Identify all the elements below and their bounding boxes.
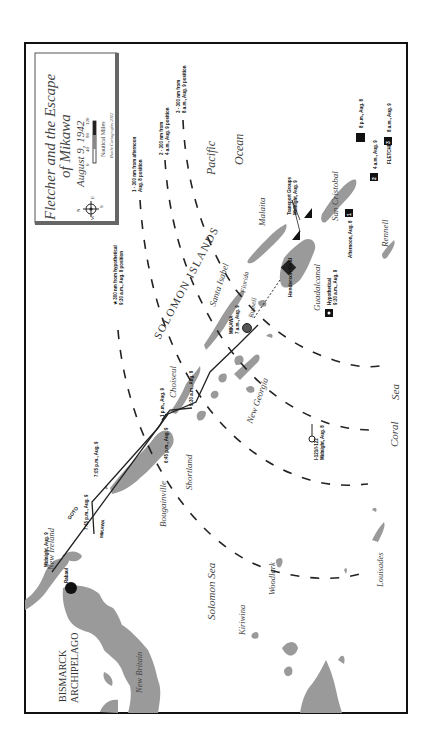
map-title-line1: Fletcher and the Escape — [42, 73, 58, 221]
afternoon-label: Afternoon, Aug. 8 — [348, 220, 353, 258]
compass-w: W — [90, 215, 95, 220]
compass-e: E — [90, 196, 95, 199]
arc-star-label-2: 9:30 a.m., Aug. 9 position — [119, 251, 124, 305]
label-bougainville: Bougainville — [158, 481, 168, 527]
scale-label: Nautical Miles — [100, 121, 106, 157]
map-date: August 9, 1942 — [74, 120, 86, 188]
label-choiseul: Choiseul — [168, 365, 178, 398]
label-bismarck-2: ARCHIPELAGO — [69, 632, 80, 703]
label-shortland: Shortland — [184, 454, 194, 490]
p4am-label: 4 a.m., Aug. 9 — [373, 140, 378, 169]
label-guadalcanal: Guadalcanal — [312, 264, 322, 311]
arc-3-label-2: 8 a.m., Aug. 9 position — [182, 65, 187, 113]
arc-3-label-1: 3 - 300 nm from — [176, 80, 181, 113]
scale-tick-40: 40 — [85, 147, 90, 153]
arc-2-label-1: 2 - 300 nm from — [159, 122, 164, 155]
fletcher-position-3-num: 3 — [385, 141, 391, 144]
compass-n: N — [76, 208, 81, 212]
sub-label-1: I-121/I-122 — [314, 438, 319, 460]
mikawa-end-label-1: MIKAWA — [229, 315, 234, 334]
hypothetical-label-2: 9:30 a.m., Aug. 9 — [333, 269, 338, 305]
mikawa-745-label: 7:45 p.m., Aug. 9 — [84, 494, 89, 530]
fletcher-position-2-num: 2 — [371, 177, 377, 180]
label-woodlark: Woodlark — [267, 562, 277, 595]
compass-s: S — [99, 205, 104, 208]
label-rabaul: Rabaul — [64, 568, 69, 583]
sub-label-2: Midnight, Aug. 8 — [320, 425, 325, 460]
title-box: Fletcher and the Escape of Mikawa August… — [35, 53, 119, 225]
mikawa-end-label-2: 7 a.m., Aug. 9 — [235, 305, 240, 334]
label-sea: Sea — [389, 384, 401, 400]
label-solomon-sea: Solomon Sea — [205, 562, 217, 620]
t-645-label: 6:45 p.m., Aug. 9 — [164, 427, 169, 463]
goto-705-label: 7:05 p.m., Aug. 9 — [94, 441, 99, 477]
fletcher-position-8pm — [356, 133, 365, 142]
label-louisades: Louisades — [375, 552, 385, 588]
goto-start-label: Midnight, Aug. 9 — [44, 532, 49, 567]
fletcher-position-1-num: 1 — [346, 213, 352, 216]
hypothetical-label-1: Hypothetical — [327, 278, 332, 305]
arc-1-label-1: 1 - 300 nm from afternoon — [132, 136, 137, 192]
t-1pm-label: 1 p.m., Aug. 9 — [160, 387, 165, 417]
map-canvas: Fletcher and the Escape of Mikawa August… — [0, 0, 430, 749]
label-malaita: Malaita — [257, 197, 267, 227]
arc-1-label-2: Aug. 8 position — [138, 159, 143, 192]
p8pm-label: 8 p.m., Aug. 8 — [359, 98, 364, 128]
label-pacific: Pacific — [204, 140, 218, 176]
transport-label-1: Transport Groups — [287, 176, 292, 215]
arc-star-label-1: ★ 300 nm from hypothetical — [113, 245, 118, 305]
map-title-line2: of Mikawa — [57, 114, 73, 178]
label-henderson-field: Henderson Field — [287, 258, 293, 297]
t-930-label: 9:30 a.m., Aug. 9 — [189, 370, 194, 406]
credit: Battle Cartography 2012 — [109, 112, 114, 158]
label-coral: Coral — [388, 421, 400, 447]
scale-tick-80: 80 — [85, 133, 90, 139]
label-san-cristobal: San Cristobal — [330, 171, 340, 221]
label-new-britain: New Britain — [134, 652, 144, 694]
mikawa-position-marker — [243, 324, 252, 333]
label-rennell: Rennell — [380, 219, 390, 248]
label-bismarck-1: BISMARCK — [57, 649, 68, 702]
p8am-label: 8 a.m., Aug. 9 — [387, 103, 392, 132]
label-ocean: Ocean — [232, 134, 246, 165]
label-kiriwina: Kiriwina — [237, 605, 247, 636]
scale-tick-120: 120 — [85, 117, 90, 125]
transport-label-2: Midnight, Aug. 9 — [293, 180, 298, 215]
arc-2-label-2: 4 a.m., Aug. 9 position — [165, 107, 170, 155]
